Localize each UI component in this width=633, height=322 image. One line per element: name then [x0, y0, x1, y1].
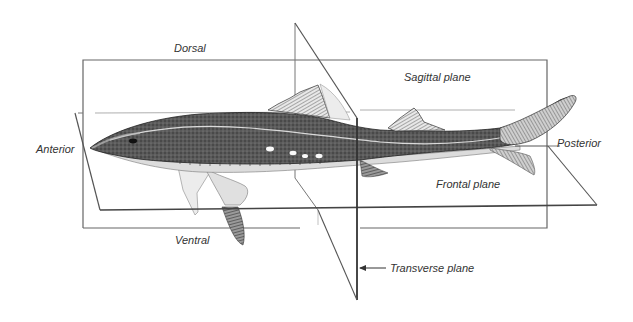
anatomical-planes-diagram — [0, 0, 633, 322]
dorsal-label: Dorsal — [174, 43, 206, 54]
sagittal-plane-label: Sagittal plane — [404, 72, 471, 83]
ventral-label: Ventral — [175, 235, 209, 246]
anterior-label: Anterior — [36, 144, 75, 155]
posterior-label: Posterior — [557, 138, 601, 149]
transverse-plane-label: Transverse plane — [390, 263, 474, 274]
shark-eye — [129, 139, 137, 144]
frontal-plane-label: Frontal plane — [436, 179, 500, 190]
transverse-plane-arrow — [359, 265, 386, 271]
